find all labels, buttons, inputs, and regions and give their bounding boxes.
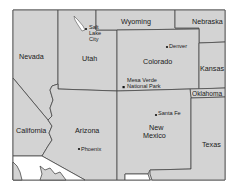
label-wyoming: Wyoming: [121, 17, 151, 26]
label-kansas: Kansas: [200, 64, 224, 73]
label-salt-lake-3: City: [89, 36, 99, 42]
label-mesa-verde-2: National Park: [127, 83, 161, 89]
label-oklahoma: Oklahoma: [192, 90, 222, 97]
mexico-region-east: [125, 174, 150, 180]
city-dot-denver[interactable]: [166, 46, 168, 48]
label-nevada: Nevada: [19, 52, 44, 61]
city-dot-salt-lake-city[interactable]: [85, 28, 87, 30]
park-marker-mesa-verde[interactable]: [123, 86, 125, 88]
southwest-us-map: Wyoming Nebraska Nevada Utah Colorado Ka…: [0, 0, 237, 190]
city-dot-phoenix[interactable]: [78, 148, 80, 150]
label-arizona: Arizona: [75, 126, 99, 135]
label-california: California: [16, 126, 46, 135]
city-dot-santa-fe[interactable]: [155, 114, 157, 116]
label-utah: Utah: [82, 54, 97, 63]
label-nebraska: Nebraska: [192, 17, 223, 26]
label-colorado: Colorado: [143, 57, 172, 66]
label-texas: Texas: [202, 140, 221, 149]
label-denver: Denver: [169, 43, 187, 49]
label-santa-fe: Santa Fe: [158, 110, 181, 116]
label-new-mexico-2: Mexico: [143, 131, 166, 140]
label-phoenix: Phoenix: [81, 146, 101, 152]
